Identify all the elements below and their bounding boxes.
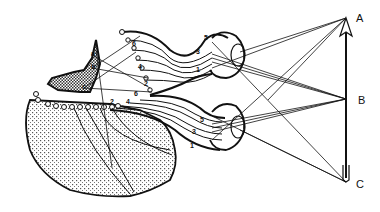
- upper-fiber-2: 2: [144, 80, 148, 87]
- lower-fiber-6: 6: [134, 90, 138, 97]
- lower-fiber-2: 2: [110, 98, 114, 105]
- projection-rays: [212, 18, 346, 182]
- label-c: C: [356, 178, 364, 190]
- visual-pathway-diagram: A B C a b c 6 4 2 5 3 1 6 4 2 5 3 1: [0, 0, 380, 212]
- lower-fiber-1: 1: [190, 142, 194, 149]
- upper-fiber-6: 6: [132, 40, 136, 47]
- upper-fiber-5: 5: [204, 34, 208, 41]
- cortex-label-a: a: [91, 50, 95, 57]
- upper-fiber-3: 3: [196, 48, 200, 55]
- lower-fiber-4: 4: [126, 98, 130, 105]
- lower-fiber-5: 5: [200, 116, 204, 123]
- label-b: B: [358, 94, 365, 106]
- lower-fiber-3: 3: [192, 128, 196, 135]
- cortex-label-b: b: [91, 63, 95, 70]
- label-a: A: [356, 12, 364, 24]
- upper-fiber-1: 1: [196, 66, 200, 73]
- lower-cortex-region: [26, 100, 176, 196]
- upper-fiber-4: 4: [138, 63, 142, 70]
- cortex-label-c: c: [82, 83, 86, 90]
